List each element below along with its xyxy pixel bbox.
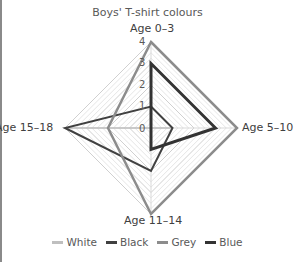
tick-label-3: 3 [139,57,145,68]
legend-item-white[interactable]: White [52,236,97,248]
legend-label-blue: Blue [219,236,242,248]
axis-label-right: Age 5–10 [242,121,293,134]
legend-label-black: Black [120,236,148,248]
axis-label-bottom: Age 11–14 [124,214,182,227]
axis-label-left: Age 15–18 [0,121,53,134]
legend-label-grey: Grey [171,236,196,248]
legend: White Black Grey Blue [0,236,295,248]
tick-label-0: 0 [139,123,145,134]
tick-label-2: 2 [139,79,145,90]
legend-item-blue[interactable]: Blue [205,236,242,248]
chart-area: Boys' T-shirt colours Age 0–3 Age 5–10 A… [0,0,295,262]
axis-label-top: Age 0–3 [130,22,174,35]
legend-item-black[interactable]: Black [106,236,148,248]
legend-swatch-grey [157,241,168,244]
legend-item-grey[interactable]: Grey [157,236,196,248]
legend-label-white: White [66,236,97,248]
legend-swatch-white [52,241,63,244]
tick-label-4: 4 [139,36,145,47]
legend-swatch-blue [205,241,216,244]
legend-swatch-black [106,241,117,244]
tick-label-1: 1 [139,100,145,111]
